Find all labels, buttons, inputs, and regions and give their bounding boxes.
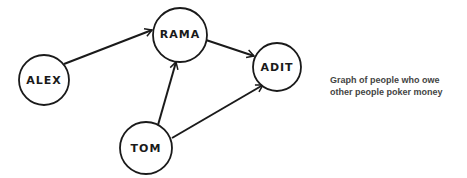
edge-rama-adit bbox=[206, 40, 254, 56]
caption-line: Graph of people who owe bbox=[330, 74, 443, 86]
node-label: TOM bbox=[131, 142, 162, 155]
diagram-caption: Graph of people who owe other people pok… bbox=[330, 74, 443, 98]
node-tom: TOM bbox=[120, 122, 172, 174]
node-label: ADIT bbox=[260, 61, 293, 74]
node-adit: ADIT bbox=[253, 43, 301, 91]
node-label: RAMA bbox=[160, 28, 200, 41]
caption-line: other people poker money bbox=[330, 86, 443, 98]
edge-tom-rama bbox=[158, 62, 176, 125]
node-alex: ALEX bbox=[19, 55, 69, 105]
edge-tom-adit bbox=[172, 85, 263, 138]
edge-alex-rama bbox=[64, 30, 152, 64]
node-label: ALEX bbox=[26, 74, 62, 87]
node-rama: RAMA bbox=[153, 8, 207, 62]
